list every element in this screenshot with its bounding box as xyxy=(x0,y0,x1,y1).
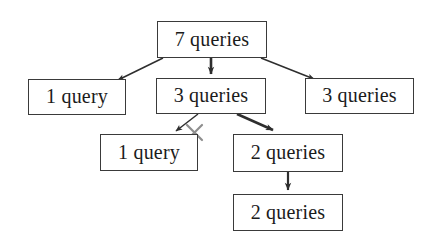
node-right-3-queries-label: 3 queries xyxy=(322,85,397,105)
diagram-canvas: 7 queries 1 query 3 queries 3 queries 1 … xyxy=(0,0,437,246)
node-2-queries-lower-label: 2 queries xyxy=(251,202,326,222)
node-leaf-1-query-label: 1 query xyxy=(118,142,180,162)
node-2-queries-lower[interactable]: 2 queries xyxy=(233,194,343,231)
node-root[interactable]: 7 queries xyxy=(157,21,267,58)
node-mid-3-queries-label: 3 queries xyxy=(174,85,249,105)
node-leaf-1-query[interactable]: 1 query xyxy=(100,134,198,171)
edge-root-to-left1 xyxy=(118,58,163,80)
node-2-queries-upper[interactable]: 2 queries xyxy=(233,134,343,172)
node-2-queries-upper-label: 2 queries xyxy=(251,142,326,162)
node-right-3-queries[interactable]: 3 queries xyxy=(305,78,414,114)
edge-mid3-to-leaf1 xyxy=(176,114,198,131)
node-left-1-query[interactable]: 1 query xyxy=(28,79,126,115)
edge-mid3-to-two-a xyxy=(237,114,273,130)
node-mid-3-queries[interactable]: 3 queries xyxy=(156,78,266,114)
node-root-label: 7 queries xyxy=(175,29,250,49)
node-left-1-query-label: 1 query xyxy=(46,86,108,106)
edge-root-to-right3 xyxy=(261,58,314,79)
